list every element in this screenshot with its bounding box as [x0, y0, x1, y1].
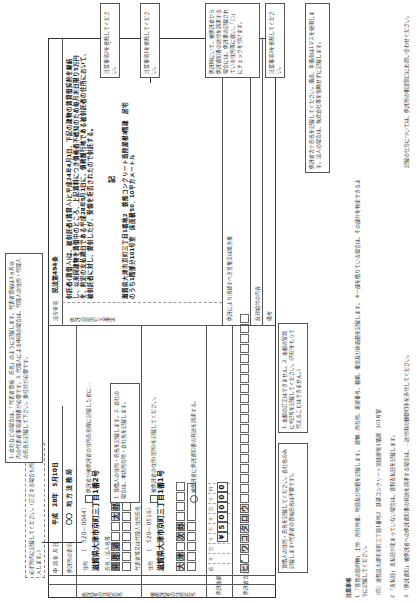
bottom-note-3: 3 「供託通知」 被供託者への供託通知書の発送を請求する場合は、…送付用の郵便切…	[403, 178, 410, 598]
note-representative: 1. 会社などの場合は、「代表者資格 氏名」のように記載します。代表者資格は3ヵ…	[5, 253, 43, 463]
kana-cell[interactable]	[240, 484, 249, 493]
kana-cell[interactable]: タ	[240, 524, 249, 533]
note-creditor: 賃借人の住所・氏名を記載してください。会社名のみ記載します(代表者の資格氏名は不…	[278, 443, 308, 573]
name-cell[interactable]: 郎	[111, 502, 120, 511]
note-3: 注意事項3を参照してください。	[265, 3, 285, 78]
rep-cell[interactable]	[187, 552, 196, 561]
amount-digit[interactable]: 0	[217, 502, 228, 512]
name-cell[interactable]: 津	[176, 552, 185, 561]
kana-cell[interactable]	[240, 374, 249, 383]
remarks-label: 備考	[266, 311, 272, 321]
rep-cell[interactable]	[122, 522, 131, 531]
kana-cell[interactable]	[240, 454, 249, 463]
bottom-notes-title: 注意事項	[345, 578, 352, 598]
postal-label: 住所	[82, 561, 88, 571]
depositor-section-label: 供託者の住所氏名	[82, 591, 122, 597]
kana-cell[interactable]	[240, 404, 249, 413]
divider	[262, 38, 263, 326]
name-cell[interactable]: 開	[111, 562, 120, 571]
application-date-label: 申 請 年 月 日	[52, 542, 58, 573]
amount-digit[interactable]: 5	[217, 522, 228, 532]
kana-cell[interactable]: ゛	[240, 554, 249, 563]
name-cell[interactable]: 大	[176, 562, 185, 571]
rep-cell[interactable]	[187, 562, 196, 571]
kana-cell[interactable]	[240, 424, 249, 433]
check-option-2[interactable]: 被供託者の住所(居所)を記載してください。	[150, 394, 158, 503]
divider	[62, 406, 63, 576]
creditor-address: 滋賀県大津市京町三丁目1番1号	[157, 470, 166, 571]
bottom-note-2: 2 「支払日」 支払日が定まっていない場合は、賃料支払日を記載します。	[389, 178, 396, 598]
creditor-postal: （ 520－0516）	[146, 504, 152, 555]
kana-cell[interactable]: ウ	[240, 504, 249, 513]
kana-cell[interactable]	[240, 414, 249, 423]
name-label: 氏名・法人名等	[104, 536, 110, 571]
name-cell[interactable]: 郡	[111, 552, 120, 561]
kana-cell[interactable]	[240, 394, 249, 403]
check-option-3[interactable]: 被供託者に供託通知書の発送を請求する。	[190, 398, 198, 503]
amount-digit[interactable]: 0	[217, 512, 228, 522]
kana-cell[interactable]	[240, 434, 249, 443]
bottom-note-1-example: （例）滋賀県大津市京町三丁目1番地2 鉄筋コンクリート造陸屋根3階建 101号室	[375, 178, 382, 598]
deposit-reason: 供託者(賃借人)は、被供託者(賃貸人)と平成24年4月1日、下記の建物の賃貸借契…	[66, 49, 94, 299]
kana-cell[interactable]	[240, 474, 249, 483]
creditor-section-label: 被供託者の住所氏名	[150, 591, 195, 597]
rep-cell[interactable]	[187, 532, 196, 541]
check-option-1[interactable]: 供託者が被供託者の住所氏名欄に記載した者に…	[85, 383, 93, 503]
name-cell[interactable]	[176, 482, 185, 491]
connector-arrow	[110, 42, 111, 43]
note-2: 注意事項2を参照してください。	[100, 3, 120, 78]
divider	[206, 326, 207, 598]
kana-cell[interactable]	[240, 494, 249, 503]
amount-digit[interactable]: ¥	[217, 532, 228, 542]
rep-label: 代表者等又は代理人住所氏名	[134, 506, 140, 571]
kana-cell[interactable]	[240, 384, 249, 393]
amount-digit[interactable]: 0	[217, 492, 228, 502]
kana-cell[interactable]: ロ	[240, 514, 249, 523]
note-notice-checkbox: 供託時にいて、被供託者から供託通知書の送付を請求する場合には、供託書の記載されて…	[205, 3, 260, 78]
kana-cell[interactable]	[240, 444, 249, 453]
rep-cell[interactable]	[122, 532, 131, 541]
divider	[222, 38, 223, 326]
name-cell[interactable]	[176, 492, 185, 501]
name-cell[interactable]	[176, 512, 185, 521]
side-text: 記載の仕方については、供託所の相談窓口にお問い合わせください。	[403, 8, 410, 168]
rep-cell[interactable]	[122, 552, 131, 561]
divider	[62, 302, 222, 303]
kana-cell[interactable]	[240, 334, 249, 343]
name-cell[interactable]	[176, 542, 185, 551]
note-amount: 1. 金額の訂正はできません。2. 金額の冒頭に¥記号を記載してください。(円印…	[278, 323, 308, 433]
property-description: 滋賀県大津市京町三丁目1番地2 鉄筋コンクリート造陸屋根3階建 居宅のうち1階部…	[122, 99, 136, 299]
name-cell[interactable]	[111, 522, 120, 531]
rep-cell[interactable]	[122, 512, 131, 521]
kana-cell[interactable]	[240, 354, 249, 363]
kana-cell[interactable]: ヒ	[240, 564, 249, 573]
amount-digits: 億 千 百 十¥ 万5 千0 百0 十0 円0	[208, 483, 230, 573]
divider	[48, 325, 276, 326]
bottom-note-1: 1 「賃貸の目的物」 土地…所在地番、地目及び地積を記載します。 建物…所在地、…	[354, 178, 368, 598]
note-lessee: 1. 賃借人の住所・氏名を記載します。2. 会社の場合は、本店所在地・会社名を記…	[110, 383, 140, 503]
name-cell[interactable]	[176, 502, 185, 511]
divider	[232, 326, 233, 598]
amount-digit[interactable]: 0	[217, 482, 228, 492]
rep-cell[interactable]	[187, 522, 196, 531]
kana-cell[interactable]	[240, 344, 249, 353]
kana-cell[interactable]	[240, 364, 249, 373]
creditor-name-cells: 大 津 次 郎	[176, 482, 185, 571]
name-cell[interactable]	[111, 532, 120, 541]
rep-cell[interactable]	[187, 542, 196, 551]
kana-cell[interactable]: コ	[240, 534, 249, 543]
reaction-label: 反対給付の内容	[254, 286, 260, 321]
rotated-form-canvas: 必ず所内に記載してください。(訂正する場合も所内に記入します。) 1. 会社など…	[0, 0, 419, 603]
connector-arrow	[150, 78, 151, 83]
kana-cell[interactable]: ワ	[240, 544, 249, 553]
amount-label: 供託金額	[215, 575, 221, 595]
name-cell[interactable]: 郎	[176, 522, 185, 531]
release-label: 供託により消滅すべき質権又は抵当権	[226, 236, 232, 321]
rep-cell[interactable]	[122, 562, 131, 571]
name-cell[interactable]: 太	[111, 512, 120, 521]
name-cell[interactable]: 湖	[111, 542, 120, 551]
kana-cell[interactable]	[240, 464, 249, 473]
rep-cell[interactable]	[122, 542, 131, 551]
kana-cell[interactable]	[240, 314, 249, 323]
name-cell[interactable]: 次	[176, 532, 185, 541]
